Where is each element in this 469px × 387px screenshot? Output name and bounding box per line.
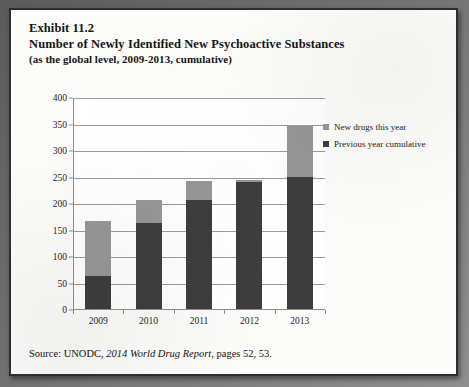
- x-tick-label: 2011: [190, 316, 209, 326]
- x-tick-mark: [224, 310, 225, 314]
- bar-segment-new-drugs: [85, 221, 111, 276]
- bar-segment-previous-cumulative: [287, 177, 313, 310]
- page-content: Exhibit 11.2 Number of Newly Identified …: [11, 10, 456, 374]
- source-prefix: Source: UNODC,: [29, 348, 104, 359]
- y-tick-label: 0: [62, 305, 67, 315]
- y-tick-label: 50: [58, 279, 68, 289]
- exhibit-heading: Exhibit 11.2 Number of Newly Identified …: [29, 20, 439, 67]
- x-tick-mark: [174, 310, 175, 314]
- x-tick-mark: [73, 310, 74, 314]
- x-tick-label: 2009: [89, 316, 108, 326]
- bar-segment-new-drugs: [186, 181, 212, 200]
- y-tick-label: 100: [53, 252, 67, 262]
- gridline: [73, 98, 325, 99]
- y-tick-label: 250: [53, 173, 67, 183]
- plot-area: 050100150200250300350400 200920102011201…: [73, 98, 325, 310]
- chart-legend: New drugs this yearPrevious year cumulat…: [323, 122, 453, 156]
- legend-item: New drugs this year: [323, 122, 453, 132]
- y-tick-label: 350: [53, 120, 67, 130]
- bar-segment-previous-cumulative: [236, 182, 262, 309]
- source-report-title: 2014 World Drug Report: [106, 348, 211, 359]
- x-axis-line: [73, 309, 325, 310]
- legend-swatch-icon: [323, 124, 329, 130]
- bar-column: [85, 221, 111, 309]
- legend-swatch-icon: [323, 141, 329, 147]
- x-tick-label: 2010: [139, 316, 158, 326]
- x-tick-mark: [123, 310, 124, 314]
- y-tick-label: 150: [53, 226, 67, 236]
- legend-label: Previous year cumulative: [334, 139, 425, 149]
- source-note: Source: UNODC, 2014 World Drug Report, p…: [29, 348, 272, 359]
- page-sheet: Exhibit 11.2 Number of Newly Identified …: [9, 8, 458, 376]
- bar-column: [136, 200, 162, 309]
- x-tick-mark: [325, 310, 326, 314]
- y-axis-line: [73, 98, 74, 310]
- bar-segment-previous-cumulative: [186, 200, 212, 309]
- source-suffix: , pages 52, 53.: [211, 348, 272, 359]
- bar-segment-previous-cumulative: [136, 223, 162, 309]
- legend-label: New drugs this year: [334, 122, 406, 132]
- x-tick-mark: [275, 310, 276, 314]
- exhibit-label: Exhibit 11.2: [29, 20, 439, 36]
- bar-column: [236, 180, 262, 309]
- x-tick-label: 2012: [240, 316, 259, 326]
- exhibit-title: Number of Newly Identified New Psychoact…: [29, 36, 439, 52]
- exhibit-subtitle: (as the global level, 2009-2013, cumulat…: [29, 52, 439, 67]
- bar-segment-new-drugs: [287, 126, 313, 176]
- bar-column: [287, 126, 313, 309]
- scanned-page-frame: Exhibit 11.2 Number of Newly Identified …: [0, 0, 469, 387]
- bar-segment-new-drugs: [136, 200, 162, 222]
- legend-item: Previous year cumulative: [323, 139, 453, 149]
- y-tick-label: 400: [53, 93, 67, 103]
- y-tick-label: 300: [53, 146, 67, 156]
- bar-segment-previous-cumulative: [85, 276, 111, 309]
- bar-column: [186, 181, 212, 309]
- y-tick-label: 200: [53, 199, 67, 209]
- x-tick-label: 2013: [290, 316, 309, 326]
